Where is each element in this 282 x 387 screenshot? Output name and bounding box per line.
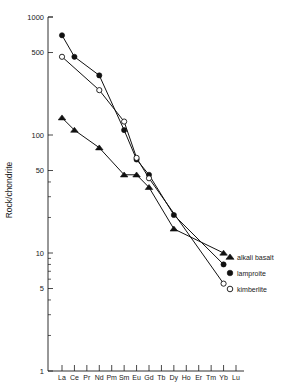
data-point xyxy=(122,119,127,124)
legend-label: alkali basalt xyxy=(237,254,274,261)
x-tick-label: La xyxy=(58,374,66,381)
x-tick-label: Lu xyxy=(232,374,240,381)
y-tick-label: 500 xyxy=(31,48,44,57)
data-point xyxy=(97,88,102,93)
x-axis-tick-labels: LaCePrNdPmSmEuGdTbDyHoErTmYbLu xyxy=(58,374,240,382)
data-point xyxy=(134,155,139,160)
x-tick-label: Pm xyxy=(106,374,117,381)
y-tick-label: 100 xyxy=(31,131,44,140)
data-point xyxy=(146,176,151,181)
series-line xyxy=(62,57,224,284)
y-axis-ticks xyxy=(48,17,53,371)
y-tick-label: 1 xyxy=(40,367,44,376)
x-tick-label: Ho xyxy=(182,374,191,381)
series-line xyxy=(62,118,224,253)
data-point xyxy=(170,226,178,231)
x-tick-label: Tb xyxy=(157,374,165,381)
data-point xyxy=(58,115,66,120)
data-point xyxy=(59,54,64,59)
series-kimberlite xyxy=(59,54,226,286)
y-tick-label: 10 xyxy=(36,249,44,258)
y-tick-label: 50 xyxy=(36,166,44,175)
data-point xyxy=(221,281,226,286)
legend: alkali basaltlamproitekimberlite xyxy=(226,254,274,293)
series-lamproite xyxy=(59,33,226,267)
series-line xyxy=(62,35,224,264)
x-axis-ticks xyxy=(62,365,236,371)
x-tick-label: Tm xyxy=(206,374,216,381)
y-axis-title-text: Rock/chondrite xyxy=(4,161,14,218)
x-tick-label: Yb xyxy=(219,374,228,381)
legend-marker xyxy=(227,270,233,276)
y-axis-tick-labels: 1000500100501051 xyxy=(27,13,44,376)
x-tick-label: Nd xyxy=(95,374,104,381)
x-tick-label: Ce xyxy=(70,374,79,381)
data-point xyxy=(59,33,64,38)
y-axis-title: Rock/chondrite xyxy=(4,161,14,218)
data-series-group xyxy=(58,33,227,287)
data-point xyxy=(221,262,226,267)
x-tick-label: Pr xyxy=(83,374,91,381)
data-point xyxy=(220,250,228,255)
chart-figure: 1000500100501051 LaCePrNdPmSmEuGdTbDyHoE… xyxy=(0,0,282,387)
x-tick-label: Sm xyxy=(119,374,130,381)
ree-spider-diagram: 1000500100501051 LaCePrNdPmSmEuGdTbDyHoE… xyxy=(0,0,282,387)
legend-marker xyxy=(227,286,233,292)
data-point xyxy=(72,54,77,59)
y-tick-label: 1000 xyxy=(27,13,44,22)
legend-label: lamproite xyxy=(237,270,266,278)
y-tick-label: 5 xyxy=(40,284,44,293)
x-tick-label: Eu xyxy=(132,374,141,381)
x-tick-label: Er xyxy=(195,374,203,381)
series-alkali-basalt xyxy=(58,115,227,255)
x-tick-label: Dy xyxy=(170,374,179,382)
x-tick-label: Gd xyxy=(144,374,153,381)
data-point xyxy=(97,73,102,78)
legend-label: kimberlite xyxy=(237,286,267,293)
